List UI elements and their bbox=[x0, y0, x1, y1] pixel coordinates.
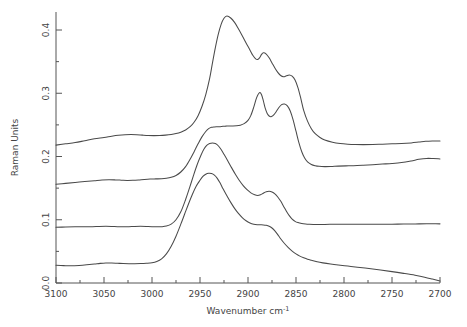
y-tick-label: 0.4 bbox=[41, 23, 51, 38]
x-tick-label: 3050 bbox=[93, 289, 116, 299]
x-tick-label: 2900 bbox=[237, 289, 260, 299]
x-tick-label: 2850 bbox=[285, 289, 308, 299]
x-tick-label: 2750 bbox=[381, 289, 404, 299]
x-tick-label: 2950 bbox=[189, 289, 212, 299]
y-tick-label: 0.1 bbox=[41, 213, 51, 227]
raman-spectra-chart: 3100305030002950290028502800275027000.00… bbox=[0, 0, 467, 327]
y-tick-label: 0.0 bbox=[41, 276, 51, 291]
y-tick-label: 0.2 bbox=[41, 149, 51, 163]
spectrum-curve bbox=[56, 92, 440, 184]
y-tick-label: 0.3 bbox=[41, 86, 51, 100]
x-tick-label: 2700 bbox=[429, 289, 452, 299]
x-tick-label: 2800 bbox=[333, 289, 356, 299]
spectrum-curve bbox=[56, 16, 440, 145]
chart-canvas: 3100305030002950290028502800275027000.00… bbox=[0, 0, 467, 327]
spectrum-curve bbox=[56, 143, 440, 227]
y-axis-title: Raman Units bbox=[10, 118, 20, 176]
spectrum-curve bbox=[56, 173, 440, 281]
x-tick-label: 3000 bbox=[141, 289, 164, 299]
x-axis-title: Wavenumber cm-1 bbox=[207, 305, 290, 317]
